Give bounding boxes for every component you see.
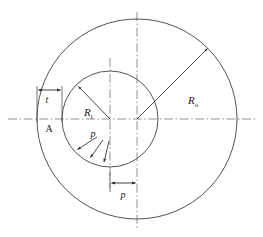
thickness-label: t — [46, 94, 49, 105]
inner-radius-label: Ri — [83, 106, 93, 121]
pressure-arrow-3 — [104, 141, 109, 162]
pressure-label: p — [90, 128, 96, 139]
outer-radius-label: Ro — [187, 94, 199, 109]
point-a-label: A — [45, 123, 53, 134]
diagram-canvas: t A Ri Ro p p — [0, 0, 263, 237]
eccentric-cylinder-diagram: t A Ri Ro p p — [0, 0, 263, 237]
pressure-arrow-2 — [91, 140, 104, 158]
eccentricity-label: p — [120, 189, 126, 200]
